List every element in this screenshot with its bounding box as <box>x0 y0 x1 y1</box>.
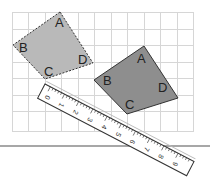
original-label-d: D <box>78 52 87 67</box>
original-label-b: B <box>19 40 28 55</box>
original-label-c: C <box>44 64 53 79</box>
geometry-figure: A B C D A B C D <box>0 0 210 178</box>
original-label-a: A <box>55 15 64 30</box>
image-label-b: B <box>103 73 112 88</box>
image-label-a: A <box>137 51 146 66</box>
image-label-c: C <box>125 97 134 112</box>
image-label-d: D <box>158 80 167 95</box>
